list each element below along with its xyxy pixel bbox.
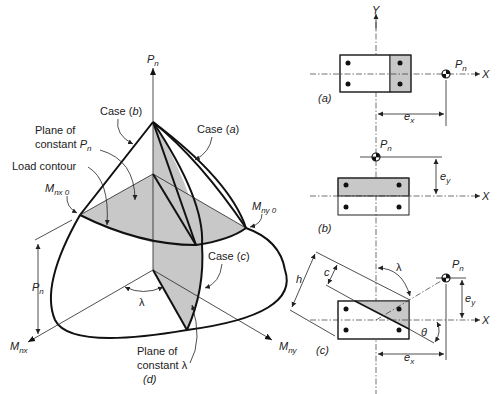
load-label-b: Pn: [380, 138, 392, 153]
plane-constant-lambda: [153, 122, 202, 330]
section-a: X Pn ex (a): [310, 55, 490, 126]
x-axis-label-c: X: [481, 314, 490, 326]
lambda-arc: [125, 287, 163, 292]
section-a-compression-zone: [390, 55, 411, 92]
ey-label-b: ey: [440, 170, 451, 185]
c-label: c: [324, 266, 330, 278]
case-b-label: Case (b): [100, 105, 142, 117]
interaction-surface: Pn λ Pn Case (b) Case (a) Plane of const…: [10, 53, 298, 385]
mny0-leader: [250, 214, 262, 227]
pn-axis-label: Pn: [147, 53, 159, 68]
bottom-fiber-line: [290, 310, 335, 336]
caption-c: (c): [316, 344, 329, 356]
neutral-axis-ext: [326, 285, 355, 301]
mny-axis-label: Mny: [279, 340, 298, 355]
x-axis-label-b: X: [481, 190, 490, 202]
caption-d: (d): [143, 373, 157, 385]
section-c: h c λ Pn X ey θ ex (c): [290, 252, 490, 366]
section-b: X Pn ey (b): [310, 138, 490, 234]
case-a-label: Case (a): [197, 123, 239, 135]
theta-arc: [435, 322, 439, 342]
lambda-label: λ: [139, 296, 145, 308]
caption-a: (a): [318, 92, 332, 104]
load-label-c: Pn: [452, 258, 464, 273]
ex-label-a: ex: [404, 110, 415, 125]
plane-lambda-label-1: Plane of: [137, 345, 178, 357]
load-contour-label: Load contour: [12, 160, 77, 172]
mnx-axis-label: Mnx: [10, 340, 29, 355]
section-a-rect: [340, 55, 390, 92]
mny0-label: Mny 0: [252, 200, 277, 215]
caption-b: (b): [318, 222, 332, 234]
h-label: h: [296, 273, 302, 285]
load-label-a: Pn: [455, 58, 467, 73]
plane-pn-label-1: Plane of: [35, 124, 76, 136]
x-axis-label-a: X: [481, 68, 490, 80]
plane-lambda-label-2: constant λ: [137, 359, 188, 371]
pn-dim-ext-top: [35, 220, 72, 240]
eccentricity-line: [376, 278, 446, 320]
case-b-leader: [118, 119, 133, 144]
ex-label-c: ex: [404, 351, 415, 366]
y-axis-label: Y: [372, 4, 380, 16]
theta-label: θ: [421, 326, 427, 338]
lambda-label-c: λ: [396, 261, 402, 273]
plane-pn-label-2: constant Pn: [35, 138, 92, 153]
mnx0-label: Mnx 0: [45, 182, 70, 197]
ey-label-c: ey: [465, 292, 476, 307]
mny-axis: [153, 270, 272, 340]
top-fiber-line: [316, 252, 410, 300]
interaction-diagram: Pn λ Pn Case (b) Case (a) Plane of const…: [0, 0, 498, 394]
mnx-axis: [28, 270, 153, 342]
case-c-label: Case (c): [208, 250, 250, 262]
mnx0-leader: [67, 196, 77, 213]
case-a-leader: [195, 137, 212, 160]
case-c-leader: [205, 264, 222, 288]
